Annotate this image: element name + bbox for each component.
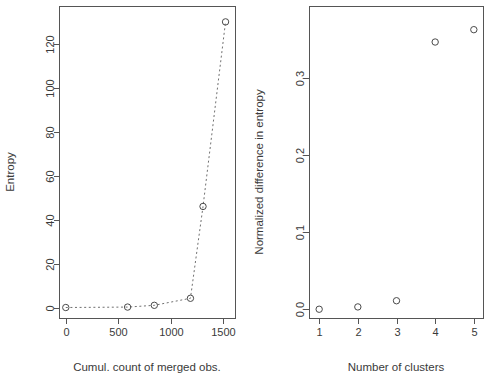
- x-tick-label: 2: [355, 326, 361, 338]
- data-point-marker: [355, 304, 361, 310]
- data-series-normalized-difference: [316, 26, 477, 312]
- y-tick-label: 0.0: [294, 302, 306, 317]
- y-axis-title-right: Normalized difference in entropy: [253, 89, 265, 255]
- data-series-entropy: [63, 19, 229, 311]
- y-tick-label: 40: [44, 214, 56, 226]
- y-tick-label: 0: [44, 305, 56, 311]
- data-point-marker: [471, 26, 477, 32]
- x-axis-title-right: Number of clusters: [348, 361, 445, 373]
- x-axis-title-left: Cumul. count of merged obs.: [73, 361, 221, 373]
- y-axis-left: 020406080100120: [44, 35, 60, 311]
- y-tick-label: 0.1: [294, 225, 306, 240]
- y-axis-title-left: Entropy: [4, 152, 16, 192]
- x-axis-left: 050010001500: [63, 319, 235, 339]
- y-tick-label: 0.3: [294, 71, 306, 86]
- y-tick-label: 80: [44, 126, 56, 138]
- plot-box-left: [60, 7, 236, 319]
- x-tick-label: 1: [316, 326, 322, 338]
- data-point-marker: [124, 304, 130, 310]
- y-tick-label: 0.2: [294, 148, 306, 163]
- x-tick-label: 0: [63, 326, 69, 338]
- x-tick-label: 4: [432, 326, 438, 338]
- series-polyline: [66, 22, 226, 308]
- y-tick-label: 20: [44, 258, 56, 270]
- plot-box-right: [310, 7, 484, 319]
- x-tick-label: 1000: [159, 326, 183, 338]
- y-tick-label: 100: [44, 79, 56, 97]
- x-tick-label: 500: [109, 326, 127, 338]
- chart-panel-normalized-difference: 0.00.10.20.3 12345 Normalized difference…: [245, 0, 490, 380]
- x-tick-label: 1500: [211, 326, 235, 338]
- y-tick-label: 120: [44, 35, 56, 53]
- data-point-marker: [316, 306, 322, 312]
- x-axis-right: 12345: [316, 319, 477, 339]
- x-tick-label: 5: [471, 326, 477, 338]
- data-point-marker: [393, 298, 399, 304]
- x-tick-label: 3: [394, 326, 400, 338]
- y-tick-label: 60: [44, 170, 56, 182]
- chart-panel-entropy: 020406080100120 050010001500 Entropy Cum…: [0, 0, 245, 380]
- data-point-marker: [432, 39, 438, 45]
- y-axis-right: 0.00.10.20.3: [294, 71, 310, 317]
- figure-canvas: 020406080100120 050010001500 Entropy Cum…: [0, 0, 490, 380]
